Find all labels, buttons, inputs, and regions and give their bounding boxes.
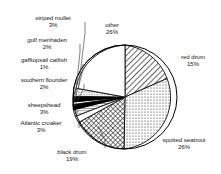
label-other-name: other [92, 21, 132, 28]
label-atlantic-croaker-name: Atlantic croaker [4, 119, 78, 126]
label-spotted-seatrout: spotted seatrout 26% [151, 136, 217, 150]
label-southern-flounder: southern flounder 2% [6, 76, 82, 90]
label-striped-mullet: striped mullet 3% [18, 14, 88, 28]
label-atlantic-croaker: Atlantic croaker 3% [4, 119, 78, 133]
pie-chart-figure: striped mullet 3% gulf menhaden 2% gafft… [0, 0, 221, 174]
label-sheepshead-name: sheepshead [12, 101, 76, 108]
label-gulf-menhaden: gulf menhaden 2% [12, 36, 82, 50]
label-gafftopsail-catfish-percent: 1% [6, 63, 82, 70]
label-black-drum-percent: 19% [40, 155, 104, 162]
label-other-percent: 26% [92, 28, 132, 35]
label-gafftopsail-catfish: gafftopsail catfish 1% [6, 56, 82, 70]
label-black-drum: black drum 19% [40, 148, 104, 162]
label-atlantic-croaker-percent: 3% [4, 126, 78, 133]
label-black-drum-name: black drum [40, 148, 104, 155]
label-southern-flounder-name: southern flounder [6, 76, 82, 83]
label-gulf-menhaden-name: gulf menhaden [12, 36, 82, 43]
label-red-drum-name: red drum [171, 53, 215, 60]
label-red-drum: red drum 15% [171, 53, 215, 67]
label-spotted-seatrout-percent: 26% [151, 143, 217, 150]
label-gafftopsail-catfish-name: gafftopsail catfish [6, 56, 82, 63]
label-sheepshead-percent: 3% [12, 108, 76, 115]
label-southern-flounder-percent: 2% [6, 83, 82, 90]
label-striped-mullet-name: striped mullet [18, 14, 88, 21]
label-spotted-seatrout-name: spotted seatrout [151, 136, 217, 143]
label-striped-mullet-percent: 3% [18, 21, 88, 28]
label-red-drum-percent: 15% [171, 60, 215, 67]
label-gulf-menhaden-percent: 2% [12, 43, 82, 50]
label-other: other 26% [92, 21, 132, 35]
label-sheepshead: sheepshead 3% [12, 101, 76, 115]
